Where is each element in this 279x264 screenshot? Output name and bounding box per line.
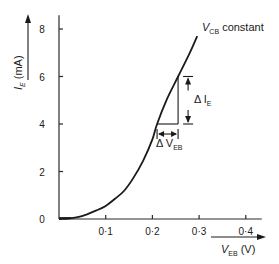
y-label-main: IE(mA) [12, 55, 26, 90]
x-tick-label: 0·4 [239, 226, 254, 237]
delta-ie-arrow-up-icon [185, 78, 191, 85]
y-tick-label: 2 [39, 167, 45, 178]
chart: 0·10·20·30·402468 IE(mA) VEB(V) VCB cons… [0, 0, 279, 264]
x-tick-label: 0·2 [145, 226, 160, 237]
y-tick-label: 8 [39, 24, 45, 35]
y-tick-label: 6 [39, 72, 45, 83]
x-tick-label: 0·3 [192, 226, 207, 237]
x-tick-label: 0·1 [98, 226, 113, 237]
delta-veb-label: Δ VEB [156, 137, 183, 151]
series-label: VCB constant [202, 21, 264, 35]
delta-ie-arrow-down-icon [185, 116, 191, 123]
x-axis-label: VEB(V) [221, 243, 255, 257]
series-line-vcb-constant [59, 36, 197, 219]
delta-ie-label: Δ IE [194, 93, 212, 107]
y-direction-arrow-icon [25, 14, 31, 80]
y-tick-label: 0 [39, 214, 45, 225]
ticks: 0·10·20·30·402468 [39, 24, 253, 237]
y-axis-label: IE(mA) [12, 55, 26, 90]
series [59, 36, 197, 219]
y-tick-label: 4 [39, 119, 45, 130]
